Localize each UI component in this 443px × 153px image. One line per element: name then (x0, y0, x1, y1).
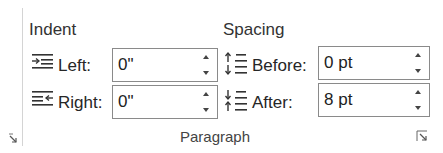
spacing-after-icon (223, 87, 251, 115)
spin-down-icon[interactable] (415, 106, 421, 110)
spin-down-icon[interactable] (203, 71, 209, 75)
spacing-before-label: Before: (252, 56, 307, 76)
indent-right-label: Right: (58, 93, 102, 113)
spacing-before-icon (223, 50, 251, 78)
spin-down-icon[interactable] (203, 108, 209, 112)
prev-group-dialog-launcher-icon[interactable] (8, 133, 18, 143)
spacing-after-spinner[interactable] (413, 87, 423, 113)
indent-left-label: Left: (58, 56, 91, 76)
indent-header: Indent (29, 20, 76, 40)
spacing-header: Spacing (223, 20, 284, 40)
indent-left-spinner[interactable] (201, 52, 211, 78)
spacing-after-input[interactable]: 8 pt (318, 83, 430, 117)
group-label: Paragraph (180, 128, 250, 145)
spin-up-icon[interactable] (415, 53, 421, 57)
indent-right-input[interactable]: 0" (112, 85, 218, 119)
spacing-before-value: 0 pt (324, 53, 352, 73)
indent-left-value: 0" (118, 55, 134, 75)
spin-up-icon[interactable] (415, 90, 421, 94)
spacing-before-input[interactable]: 0 pt (318, 46, 430, 80)
spin-up-icon[interactable] (203, 92, 209, 96)
spacing-after-label: After: (252, 93, 293, 113)
group-divider (22, 8, 23, 146)
spin-down-icon[interactable] (415, 69, 421, 73)
indent-left-icon (31, 52, 55, 76)
indent-right-spinner[interactable] (201, 89, 211, 115)
paragraph-dialog-launcher-icon[interactable] (416, 130, 428, 142)
indent-right-icon (31, 89, 55, 113)
spin-up-icon[interactable] (203, 55, 209, 59)
spacing-after-value: 8 pt (324, 90, 352, 110)
indent-right-value: 0" (118, 92, 134, 112)
spacing-before-spinner[interactable] (413, 50, 423, 76)
indent-left-input[interactable]: 0" (112, 48, 218, 82)
